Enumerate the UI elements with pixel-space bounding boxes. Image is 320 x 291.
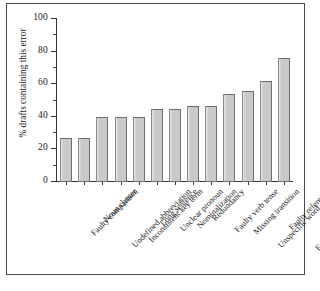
x-tick-label: Noun cluster	[102, 187, 139, 224]
figure-container: 020406080100 % drafts containing this er…	[0, 0, 317, 291]
x-axis-tick-labels: Faulty comparisonNoun clusterUndefined a…	[0, 0, 317, 291]
